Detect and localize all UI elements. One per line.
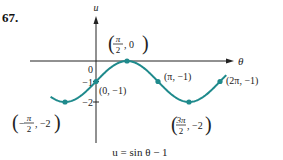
data-point bbox=[93, 79, 98, 84]
point-label: (3π2, −2) bbox=[171, 113, 212, 136]
point-label: (π, −1) bbox=[164, 71, 191, 83]
axes: θu0−1−2 bbox=[30, 2, 244, 143]
fraction-numerator: π bbox=[116, 34, 121, 44]
y-axis-label: u bbox=[94, 2, 99, 13]
data-point bbox=[155, 79, 160, 84]
point-label: (π2, 0) bbox=[108, 32, 149, 55]
fraction-numerator: 3π bbox=[175, 115, 186, 125]
equation-label: u = sin θ − 1 bbox=[112, 146, 167, 158]
data-point bbox=[62, 99, 67, 104]
fraction-denominator: 2 bbox=[116, 45, 121, 55]
fraction-denominator: 2 bbox=[179, 126, 184, 136]
graph: θu0−1−2 (π2, 0)(0, −1)(−π2, −2)(π, −1)(3… bbox=[0, 0, 283, 160]
coord-y: , −2 bbox=[187, 120, 203, 131]
data-point bbox=[217, 79, 222, 84]
paren-left: ( bbox=[108, 32, 115, 55]
paren-right: ) bbox=[54, 111, 61, 134]
x-axis-arrow bbox=[226, 59, 234, 64]
data-point bbox=[124, 58, 129, 63]
fraction-denominator: 2 bbox=[27, 124, 32, 134]
sine-curve bbox=[51, 61, 227, 102]
paren-right: ) bbox=[205, 113, 212, 136]
minus-sign: − bbox=[19, 118, 25, 129]
fraction-numerator: π bbox=[27, 113, 32, 123]
y-tick-label: −2 bbox=[82, 97, 93, 108]
y-axis-arrow bbox=[94, 16, 99, 24]
point-marks: (π2, 0)(0, −1)(−π2, −2)(π, −1)(3π2, −2)(… bbox=[12, 32, 258, 136]
paren-right: ) bbox=[142, 32, 149, 55]
paren-left: ( bbox=[12, 111, 19, 134]
data-point bbox=[186, 99, 191, 104]
coord-y: , 0 bbox=[124, 39, 134, 50]
point-label: (2π, −1) bbox=[226, 75, 258, 87]
point-label: (0, −1) bbox=[99, 85, 126, 97]
x-axis-label: θ bbox=[238, 55, 244, 67]
point-label: (−π2, −2) bbox=[12, 111, 61, 134]
coord-y: , −2 bbox=[35, 118, 51, 129]
y-tick-label: 0 bbox=[88, 64, 93, 75]
